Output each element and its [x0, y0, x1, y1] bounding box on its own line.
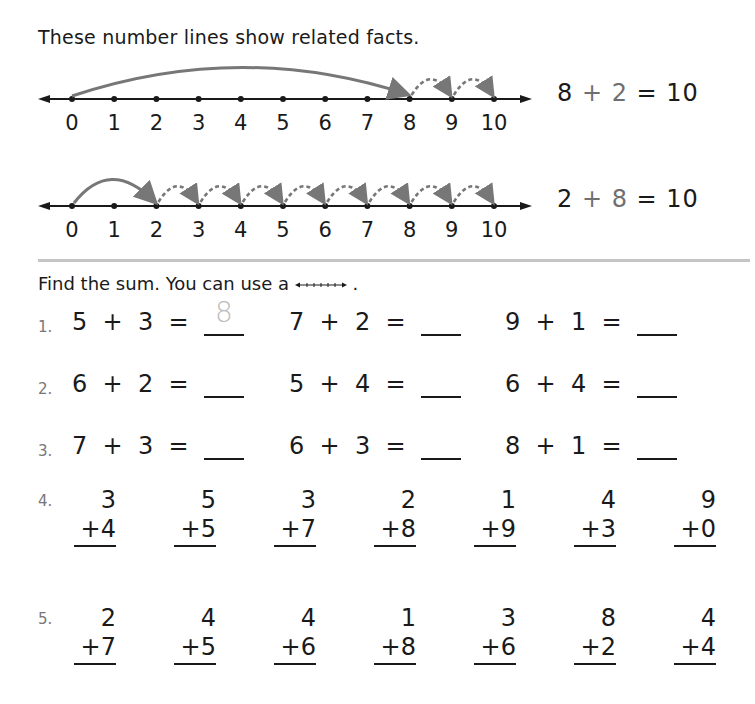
tick-dot [153, 203, 159, 209]
plus-sign: + [103, 370, 123, 398]
fact-addend-a: 2 [557, 185, 573, 213]
bottom-addend[interactable]: +9 [474, 515, 516, 547]
tick-dot [153, 96, 159, 102]
instruction-text: Find the sum. You can use a [38, 273, 289, 294]
bottom-addend[interactable]: +4 [74, 515, 116, 547]
answer-blank[interactable] [421, 432, 461, 460]
bottom-addend[interactable]: +6 [274, 633, 316, 665]
tick-dot [322, 96, 328, 102]
dashed-jump-arrow [369, 186, 407, 202]
top-addend: 2 [74, 604, 116, 633]
dashed-jump-arrow [201, 186, 239, 202]
addend-b: 3 [355, 432, 370, 460]
tick-dot [491, 96, 497, 102]
vertical-addition-problem: 3+7 [274, 486, 316, 547]
answer-blank[interactable] [637, 370, 677, 398]
addend-a: 7 [72, 432, 87, 460]
tick-label: 3 [192, 111, 205, 135]
answer-blank[interactable] [637, 308, 677, 336]
vertical-addition-problem: 4+5 [174, 604, 216, 665]
answer-blank[interactable] [421, 370, 461, 398]
bottom-addend[interactable]: +6 [474, 633, 516, 665]
tick-label: 6 [319, 218, 332, 242]
equals-sign: = [168, 370, 188, 398]
tick-dot [280, 203, 286, 209]
top-addend: 5 [174, 486, 216, 515]
tick-dot [111, 203, 117, 209]
tick-dot [407, 96, 413, 102]
addend-b: 1 [571, 308, 586, 336]
addition-problem: 9 + 1 = [505, 308, 677, 336]
bottom-addend[interactable]: +8 [374, 633, 416, 665]
top-addend: 3 [274, 486, 316, 515]
bottom-addend[interactable]: +8 [374, 515, 416, 547]
tick-dot [280, 96, 286, 102]
vertical-addition-problem: 3+6 [474, 604, 516, 665]
tick-label: 5 [276, 218, 289, 242]
fact-sum: 10 [666, 79, 699, 107]
bottom-addend[interactable]: +7 [274, 515, 316, 547]
answer-blank[interactable] [421, 308, 461, 336]
number-line-2: 012345678910 [0, 157, 540, 247]
section-divider [38, 259, 750, 262]
plus-sign: + [536, 308, 556, 336]
answer-blank[interactable] [637, 432, 677, 460]
answer-blank[interactable] [204, 432, 244, 460]
top-addend: 4 [574, 486, 616, 515]
fact-sum: 10 [666, 185, 699, 213]
vertical-addition-problem: 4+4 [674, 604, 716, 665]
answer-blank[interactable]: 8 [204, 308, 244, 336]
addend-a: 8 [505, 432, 520, 460]
bottom-addend[interactable]: +0 [674, 515, 716, 547]
tick-dot [111, 96, 117, 102]
problem-number: 1. [38, 318, 52, 336]
top-addend: 8 [574, 604, 616, 633]
problem-number: 3. [38, 442, 52, 460]
dashed-jump-arrow [243, 186, 281, 202]
dashed-jump-arrow [327, 186, 365, 202]
tick-label: 1 [108, 111, 121, 135]
addition-problem: 7 + 3 = [72, 432, 244, 460]
bottom-addend[interactable]: +3 [574, 515, 616, 547]
bottom-addend[interactable]: +5 [174, 515, 216, 547]
dashed-jump-arrow [454, 79, 492, 95]
answer-value: 8 [204, 296, 244, 329]
bottom-addend[interactable]: +4 [674, 633, 716, 665]
addition-problem: 5 + 4 = [289, 370, 461, 398]
tick-dot [196, 203, 202, 209]
tick-label: 7 [361, 111, 374, 135]
addend-b: 1 [571, 432, 586, 460]
addend-b: 3 [138, 308, 153, 336]
equals-sign: = [601, 432, 621, 460]
tick-label: 10 [481, 111, 508, 135]
problem-number: 5. [38, 610, 52, 628]
addend-b: 3 [138, 432, 153, 460]
top-addend: 4 [674, 604, 716, 633]
tick-dot [238, 96, 244, 102]
fact-op: + [582, 79, 603, 107]
bottom-addend[interactable]: +5 [174, 633, 216, 665]
addend-a: 6 [289, 432, 304, 460]
addition-problem: 6 + 3 = [289, 432, 461, 460]
addend-a: 7 [289, 308, 304, 336]
tick-label: 0 [65, 111, 78, 135]
vertical-addition-problem: 2+8 [374, 486, 416, 547]
addition-problem: 7 + 2 = [289, 308, 461, 336]
addition-problem: 6 + 4 = [505, 370, 677, 398]
addend-a: 6 [505, 370, 520, 398]
fact-equals: = [637, 79, 658, 107]
bottom-addend[interactable]: +2 [574, 633, 616, 665]
answer-blank[interactable] [204, 370, 244, 398]
tick-label: 2 [150, 218, 163, 242]
tick-dot [238, 203, 244, 209]
plus-sign: + [320, 370, 340, 398]
vertical-addition-problem: 5+5 [174, 486, 216, 547]
top-addend: 2 [374, 486, 416, 515]
tick-label: 0 [65, 218, 78, 242]
intro-text: These number lines show related facts. [38, 26, 420, 48]
tick-dot [69, 96, 75, 102]
addend-a: 5 [289, 370, 304, 398]
bottom-addend[interactable]: +7 [74, 633, 116, 665]
vertical-addition-problem: 4+3 [574, 486, 616, 547]
number-line-1: 012345678910 [0, 50, 540, 140]
